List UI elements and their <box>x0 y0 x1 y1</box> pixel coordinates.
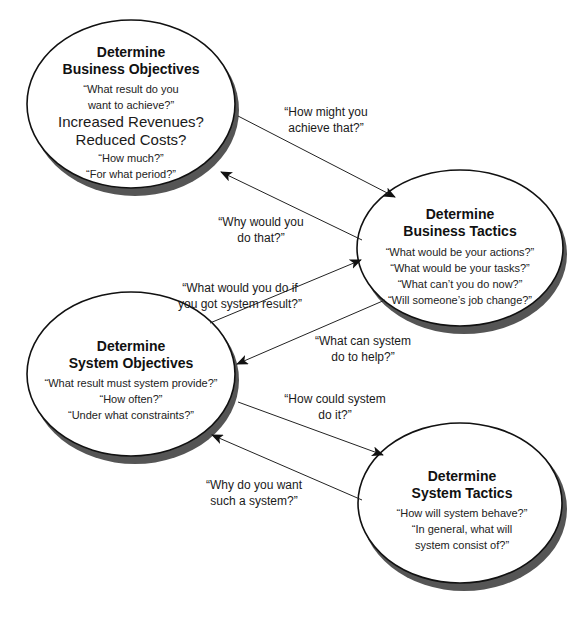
edge-label-so-to-bt: “What would you do if you got system res… <box>178 280 302 312</box>
node-business-objectives: Determine Business Objectives “What resu… <box>58 44 204 182</box>
node-question: “What would be your tasks?” <box>386 260 535 276</box>
node-question: “How often?” <box>45 391 218 407</box>
node-title-line1: Determine <box>58 44 204 61</box>
node-question: system consist of?” <box>397 537 528 553</box>
edge-label-line2: achieve that?” <box>284 120 367 136</box>
node-title-line1: Determine <box>397 468 528 485</box>
edge-label-st-to-so: “Why do you want such a system?” <box>206 477 302 509</box>
node-question: “What can’t you do now?” <box>386 276 535 292</box>
node-system-tactics: Determine System Tactics “How will syste… <box>397 468 528 553</box>
node-title-line2: Business Tactics <box>386 223 535 240</box>
edge-label-line1: “What can system <box>315 333 411 349</box>
node-question: “For what period?” <box>58 166 204 182</box>
node-title-line2: System Objectives <box>45 355 218 372</box>
node-title-line2: Business Objectives <box>58 61 204 78</box>
edge-label-so-to-st: “How could system do it?” <box>284 391 385 423</box>
node-question: “What result do you <box>58 81 204 97</box>
node-emphasis: Increased Revenues? <box>58 113 204 131</box>
edge-label-line2: do it?” <box>284 407 385 423</box>
node-question: “Will someone’s job change?” <box>386 292 535 308</box>
edge-label-line2: you got system result?” <box>178 296 302 312</box>
node-question: “In general, what will <box>397 521 528 537</box>
edge-label-line1: “How might you <box>284 104 367 120</box>
node-question: “What result must system provide?” <box>45 375 218 391</box>
node-question: “How will system behave?” <box>397 505 528 521</box>
node-emphasis: Reduced Costs? <box>58 131 204 149</box>
node-title-line1: Determine <box>45 338 218 355</box>
node-question: “What would be your actions?” <box>386 244 535 260</box>
edge-label-bt-to-bo: “Why would you do that?” <box>218 214 303 246</box>
edge-label-line2: do to help?” <box>315 349 411 365</box>
edge-label-bt-to-so: “What can system do to help?” <box>315 333 411 365</box>
node-title-line2: System Tactics <box>397 485 528 502</box>
edge-label-line2: such a system?” <box>206 493 302 509</box>
node-question: want to achieve?” <box>58 97 204 113</box>
edge-label-line2: do that?” <box>218 230 303 246</box>
edge-label-line1: “Why would you <box>218 214 303 230</box>
edge-label-bo-to-bt: “How might you achieve that?” <box>284 104 367 136</box>
edge-label-line1: “Why do you want <box>206 477 302 493</box>
node-question: “Under what constraints?” <box>45 407 218 423</box>
node-title-line1: Determine <box>386 206 535 223</box>
edge-label-line1: “How could system <box>284 391 385 407</box>
node-question: “How much?” <box>58 150 204 166</box>
node-business-tactics: Determine Business Tactics “What would b… <box>386 206 535 308</box>
node-system-objectives: Determine System Objectives “What result… <box>45 338 218 423</box>
edge-label-line1: “What would you do if <box>178 280 302 296</box>
